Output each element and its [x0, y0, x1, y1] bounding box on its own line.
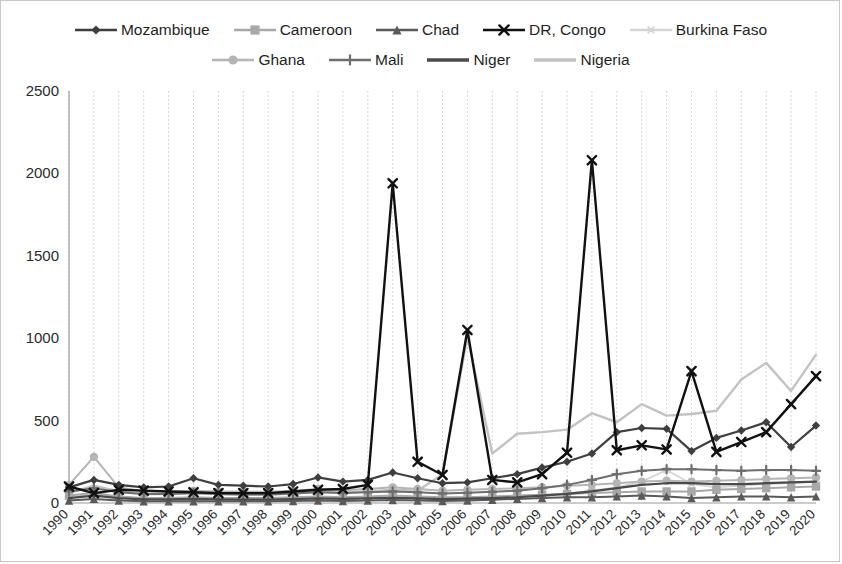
legend-swatch-icon — [427, 53, 469, 67]
data-point-marker — [613, 470, 621, 478]
y-axis-tick-label: 2500 — [26, 82, 59, 99]
data-point-marker — [737, 426, 745, 434]
legend-swatch-icon — [376, 23, 418, 37]
data-point-marker — [737, 485, 745, 493]
x-axis-tick-label: 2000 — [288, 507, 320, 539]
legend-label: Nigeria — [580, 52, 629, 68]
chart-plot-area: 0500100015002000250019901991199219931994… — [1, 79, 841, 563]
legend-item-dr-congo[interactable]: DR, Congo — [483, 22, 606, 38]
data-point-marker — [787, 466, 795, 474]
data-point-marker — [413, 474, 421, 482]
x-axis-tick-label: 2009 — [512, 507, 544, 539]
data-point-marker — [712, 466, 720, 474]
data-point-marker — [762, 466, 770, 474]
data-point-marker — [638, 424, 646, 432]
legend-swatch-icon — [212, 53, 254, 67]
legend-item-cameroon[interactable]: Cameroon — [234, 22, 352, 38]
x-axis-tick-label: 1990 — [39, 507, 71, 539]
legend-swatch-icon — [630, 23, 672, 37]
data-point-marker — [90, 476, 98, 484]
x-axis-tick-label: 1995 — [164, 507, 196, 539]
x-axis-tick-label: 2011 — [563, 507, 594, 538]
x-axis-tick-label: 1993 — [114, 507, 146, 539]
data-point-marker — [762, 484, 770, 492]
x-axis-tick-label: 2010 — [537, 507, 569, 539]
x-axis-tick-label: 1994 — [139, 506, 171, 538]
x-axis-tick-label: 2012 — [587, 507, 619, 539]
x-axis-tick-label: 1999 — [263, 507, 295, 539]
data-point-marker — [687, 477, 695, 485]
x-axis-tick-label: 2015 — [662, 507, 694, 539]
data-point-marker — [737, 467, 745, 475]
data-point-marker — [812, 467, 820, 475]
x-axis-tick-label: 2002 — [338, 507, 370, 539]
x-axis-tick-label: 2019 — [761, 507, 793, 539]
x-axis-tick-label: 2020 — [786, 507, 818, 539]
legend-item-ghana[interactable]: Ghana — [212, 52, 305, 68]
legend-label: Burkina Faso — [676, 22, 767, 38]
y-axis-tick-label: 500 — [34, 412, 59, 429]
legend-item-nigeria[interactable]: Nigeria — [534, 52, 629, 68]
data-point-marker — [687, 465, 695, 473]
x-axis-tick-label: 1991 — [64, 507, 96, 539]
x-axis-tick-label: 1997 — [214, 507, 246, 539]
legend-item-burkina-faso[interactable]: Burkina Faso — [630, 22, 767, 38]
y-axis-tick-label: 1500 — [26, 247, 59, 264]
x-axis-tick-label: 2014 — [637, 506, 669, 538]
legend-row: MozambiqueCameroonChadDR, CongoBurkina F… — [1, 15, 841, 45]
legend-swatch-icon — [534, 53, 576, 67]
data-point-marker — [712, 486, 720, 494]
data-point-marker — [812, 482, 820, 490]
x-axis-tick-label: 2003 — [363, 507, 395, 539]
legend-swatch-icon — [75, 23, 117, 37]
data-point-marker — [438, 479, 446, 487]
chart-legend: MozambiqueCameroonChadDR, CongoBurkina F… — [1, 15, 841, 75]
x-axis-tick-label: 2008 — [487, 507, 519, 539]
legend-label: Niger — [473, 52, 510, 68]
legend-row: GhanaMaliNigerNigeria — [1, 45, 841, 75]
data-point-marker — [389, 468, 397, 476]
legend-item-mozambique[interactable]: Mozambique — [75, 22, 210, 38]
y-axis-tick-label: 2000 — [26, 164, 59, 181]
legend-label: Chad — [422, 22, 459, 38]
data-point-marker — [189, 474, 197, 482]
legend-swatch-icon — [234, 23, 276, 37]
data-point-marker — [787, 483, 795, 491]
legend-label: DR, Congo — [529, 22, 606, 38]
x-axis-tick-label: 2001 — [313, 507, 345, 539]
line-chart-svg: 0500100015002000250019901991199219931994… — [1, 79, 841, 563]
chart-frame: MozambiqueCameroonChadDR, CongoBurkina F… — [0, 0, 840, 562]
legend-label: Ghana — [258, 52, 305, 68]
y-axis-tick-label: 1000 — [26, 329, 59, 346]
x-axis-tick-label: 1992 — [89, 507, 121, 539]
data-point-marker — [90, 453, 98, 461]
data-point-marker — [563, 458, 571, 466]
data-point-marker — [613, 479, 621, 487]
x-axis-tick-label: 2005 — [413, 507, 445, 539]
legend-item-mali[interactable]: Mali — [329, 52, 403, 68]
data-point-marker — [314, 473, 322, 481]
x-axis-tick-label: 2016 — [687, 507, 719, 539]
x-axis-tick-label: 2007 — [463, 507, 495, 539]
x-axis-tick-label: 2018 — [736, 507, 768, 539]
legend-swatch-icon — [483, 23, 525, 37]
legend-swatch-icon — [329, 53, 371, 67]
data-point-marker — [214, 481, 222, 489]
data-point-marker — [638, 467, 646, 475]
legend-item-chad[interactable]: Chad — [376, 22, 459, 38]
x-axis-tick-label: 2013 — [612, 507, 644, 539]
x-axis-tick-label: 2006 — [438, 507, 470, 539]
legend-label: Cameroon — [280, 22, 352, 38]
legend-label: Mozambique — [121, 22, 210, 38]
x-axis-tick-label: 2004 — [388, 506, 420, 538]
x-axis-tick-label: 1996 — [189, 507, 221, 539]
x-axis-tick-label: 1998 — [238, 507, 270, 539]
legend-item-niger[interactable]: Niger — [427, 52, 510, 68]
x-axis-tick-label: 2017 — [712, 507, 744, 539]
legend-label: Mali — [375, 52, 403, 68]
data-point-marker — [513, 470, 521, 478]
data-point-marker — [463, 478, 471, 486]
